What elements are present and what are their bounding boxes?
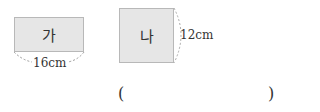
square-na-side: 12cm	[180, 28, 213, 42]
rectangle-ga-width: 16cm	[33, 56, 66, 70]
answer-paren-close: )	[268, 84, 274, 103]
answer-paren-open: (	[118, 84, 124, 103]
